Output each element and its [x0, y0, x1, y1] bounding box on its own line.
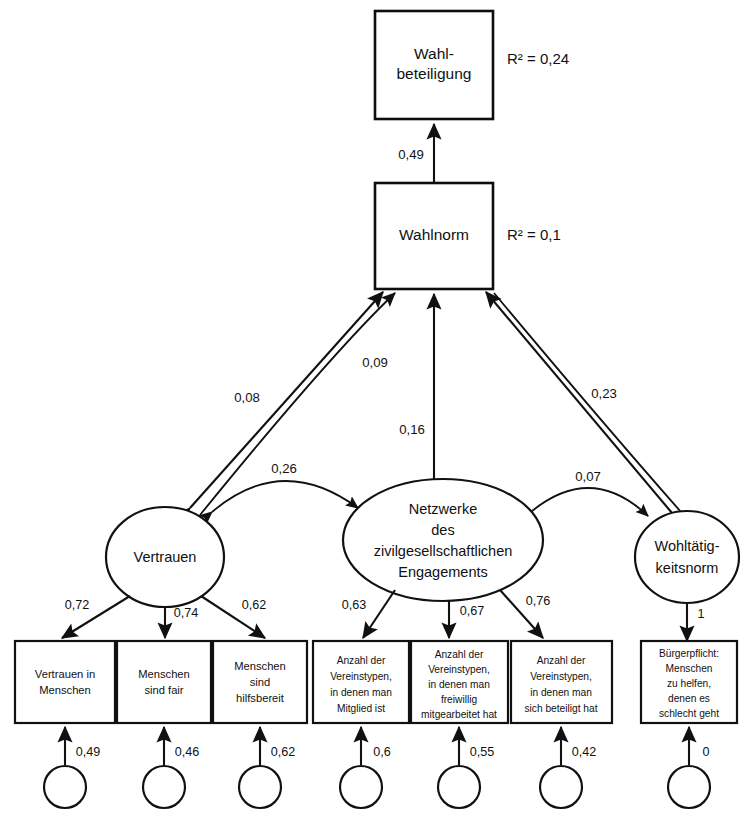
coefficient-covariance-netzwerke-wohltaetigkeit: 0,07 — [575, 469, 601, 484]
node-wohltaetigkeitsnorm[interactable] — [635, 511, 739, 603]
wahlnorm-r-squared: R² = 0,1 — [507, 226, 561, 243]
indicator-3-line2: sind — [250, 676, 271, 688]
indicator-7-line4: denen es — [668, 693, 710, 704]
covariance-netzwerke-wohltaetigkeit — [524, 488, 648, 518]
indicator-7-line5: schlecht geht — [659, 708, 719, 719]
indicator-3-line1: Menschen — [234, 660, 286, 672]
netzwerke-label-line2: des — [431, 522, 454, 538]
coefficient-vertrauen-wahlnorm-008: 0,08 — [234, 390, 260, 405]
coefficient-loading-ind4: 0,63 — [342, 598, 367, 612]
covariance-vertrauen-netzwerke — [212, 481, 358, 512]
indicator-1-line1: Vertrauen in — [35, 668, 95, 680]
indicator-6-line2: Vereinstypen, — [530, 671, 592, 682]
coefficient-error-2: 0,46 — [175, 745, 200, 759]
error-circle-7[interactable] — [668, 766, 710, 808]
coefficient-netzwerke-to-wahlnorm: 0,16 — [399, 422, 425, 437]
indicator-5-line2: Vereinstypen, — [428, 664, 490, 675]
indicator-6-line3: in denen man — [530, 687, 592, 698]
coefficient-error-3: 0,62 — [271, 745, 296, 759]
wohltaetigkeitsnorm-label-line1: Wohltätig- — [654, 538, 719, 554]
coefficient-error-6: 0,42 — [572, 745, 597, 759]
coefficient-error-7: 0 — [702, 745, 709, 759]
netzwerke-label-line1: Netzwerke — [409, 501, 478, 517]
coefficient-error-5: 0,55 — [470, 745, 495, 759]
loading-netzwerke-ind4 — [363, 590, 395, 638]
indicator-5-line5: mitgearbeitet hat — [421, 709, 497, 720]
indicator-4-line4: Mitglied ist — [337, 703, 385, 714]
coefficient-loading-ind7: 1 — [697, 607, 704, 621]
indicator-box-2[interactable] — [117, 641, 211, 723]
indicator-5-line1: Anzahl der — [435, 649, 484, 660]
error-circle-6[interactable] — [540, 766, 582, 808]
indicator-3-line3: hilfsbereit — [236, 692, 285, 704]
coefficient-covariance-vertrauen-netzwerke: 0,26 — [271, 461, 297, 476]
indicator-7-line2: Menschen — [665, 663, 712, 674]
node-netzwerke[interactable] — [343, 479, 543, 601]
indicator-6-line1: Anzahl der — [537, 655, 586, 666]
indicator-6-line4: sich beteiligt hat — [524, 703, 597, 714]
coefficient-error-4: 0,6 — [373, 745, 391, 759]
coefficient-loading-ind5: 0,67 — [460, 604, 485, 618]
coefficient-loading-ind1: 0,72 — [65, 598, 90, 612]
indicator-box-1[interactable] — [15, 641, 115, 723]
sem-path-diagram: Wahl- beteiligung R² = 0,24 0,49 Wahlnor… — [0, 0, 751, 814]
wahlbeteiligung-label-line1: Wahl- — [414, 45, 454, 62]
indicator-4-line3: in denen man — [330, 687, 392, 698]
error-circle-2[interactable] — [143, 766, 185, 808]
coefficient-loading-ind6: 0,76 — [526, 594, 551, 608]
error-circle-5[interactable] — [438, 766, 480, 808]
wahlbeteiligung-r-squared: R² = 0,24 — [507, 50, 569, 67]
vertrauen-label: Vertrauen — [134, 549, 197, 565]
indicator-5-line4: freiwillig — [441, 694, 478, 705]
indicator-2-line2: sind fair — [144, 684, 183, 696]
indicator-7-line3: zu helfen, — [667, 678, 711, 689]
wohltaetigkeitsnorm-label-line2: keitsnorm — [656, 560, 719, 576]
wahlbeteiligung-label-line2: beteiligung — [397, 65, 472, 82]
indicator-4-line2: Vereinstypen, — [330, 671, 392, 682]
coefficient-loading-ind3: 0,62 — [242, 598, 267, 612]
netzwerke-label-line4: Engagements — [398, 564, 487, 580]
coefficient-error-1: 0,49 — [76, 745, 101, 759]
error-circle-4[interactable] — [340, 766, 382, 808]
indicator-7-line1: Bürgerpflicht: — [659, 648, 719, 659]
indicator-4-line1: Anzahl der — [337, 655, 386, 666]
error-circle-3[interactable] — [239, 766, 281, 808]
indicator-1-line2: Menschen — [39, 684, 91, 696]
coefficient-loading-ind2: 0,74 — [174, 606, 199, 620]
coefficient-wohltaetigkeit-to-wahlnorm: 0,23 — [591, 386, 617, 401]
coefficient-wahlnorm-to-wahlbeteiligung: 0,49 — [398, 147, 424, 162]
wahlnorm-label: Wahlnorm — [399, 226, 469, 243]
indicator-5-line3: in denen man — [428, 679, 490, 690]
netzwerke-label-line3: zivilgesellschaftlichen — [374, 543, 513, 559]
diagram-canvas: Wahl- beteiligung R² = 0,24 0,49 Wahlnor… — [0, 0, 751, 814]
indicator-2-line1: Menschen — [138, 668, 190, 680]
coefficient-vertrauen-wahlnorm-009: 0,09 — [362, 355, 388, 370]
error-circle-1[interactable] — [44, 766, 86, 808]
